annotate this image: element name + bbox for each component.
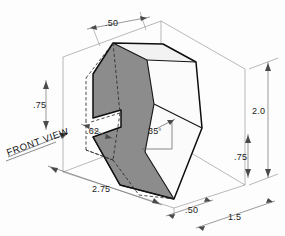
dim-label-left-height: .75	[33, 100, 46, 110]
dim-label-notch-depth: .62	[86, 126, 99, 136]
front-view-label: FRONT VIEW	[5, 125, 70, 158]
isometric-drawing-canvas: .50 .75 .62 35° 2.75	[0, 0, 285, 236]
dimension-lower-height: .75	[234, 134, 251, 178]
dimension-top-width: .50	[87, 12, 150, 46]
front-view-annotation: FRONT VIEW	[5, 125, 70, 161]
dim-label-bottom-length: 2.75	[92, 184, 110, 194]
dimension-depth: 1.5	[196, 198, 275, 231]
dim-label-angle: 35°	[148, 126, 161, 136]
dimension-overall-height: 2.0	[249, 58, 278, 185]
technical-drawing-page: .50 .75 .62 35° 2.75	[0, 0, 285, 236]
dim-label-overall-height: 2.0	[252, 106, 265, 116]
solid-object	[86, 43, 202, 199]
dimension-left-height: .75	[33, 80, 49, 130]
left-sliver-face	[86, 74, 93, 122]
dim-label-bottom-width: .50	[185, 205, 198, 215]
dim-label-top-width: .50	[105, 18, 118, 28]
dim-label-lower-height: .75	[234, 152, 247, 162]
dim-label-depth: 1.5	[228, 212, 241, 222]
